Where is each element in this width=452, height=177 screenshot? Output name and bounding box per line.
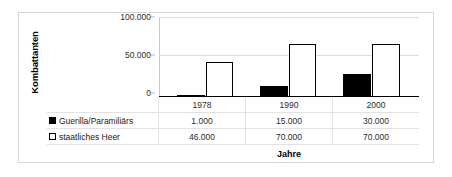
y-tick-mark-100000 bbox=[151, 17, 155, 18]
table-header-2000: 2000 bbox=[333, 97, 419, 113]
x-axis-title: Jahre bbox=[159, 147, 419, 161]
bar-group-1978 bbox=[175, 17, 237, 97]
legend-swatch-filled-square-icon bbox=[49, 117, 56, 124]
plot-region: 100.000 50.000 0 bbox=[47, 17, 419, 97]
table-cell-heer-2000: 70.000 bbox=[333, 129, 419, 145]
plot-area bbox=[159, 17, 419, 97]
bar-heer-1990 bbox=[289, 44, 316, 97]
y-tick-label-50000: 50.000 bbox=[125, 50, 151, 60]
legend-item-guerilla: Guerilla/Paramiliärs bbox=[47, 113, 159, 129]
legend-label-heer: staatliches Heer bbox=[59, 132, 120, 142]
table-row-years: 1978 1990 2000 bbox=[47, 97, 419, 113]
bar-guerilla-2000 bbox=[343, 74, 370, 97]
table-cell-guerilla-1978: 1.000 bbox=[159, 113, 246, 129]
table-cell-heer-1978: 46.000 bbox=[159, 129, 246, 145]
legend-label-guerilla: Guerilla/Paramiliärs bbox=[59, 116, 133, 126]
y-axis-title: Kombattanten bbox=[25, 19, 43, 105]
y-tick-mark-0 bbox=[151, 93, 155, 94]
table-cell-heer-1990: 70.000 bbox=[246, 129, 333, 145]
bar-group-2000 bbox=[341, 17, 403, 97]
y-axis-tick-labels: 100.000 50.000 0 bbox=[47, 17, 155, 97]
table-cell-guerilla-1990: 15.000 bbox=[246, 113, 333, 129]
table-row-heer: staatliches Heer 46.000 70.000 70.000 bbox=[47, 129, 419, 145]
table-row-guerilla: Guerilla/Paramiliärs 1.000 15.000 30.000 bbox=[47, 113, 419, 129]
legend-item-heer: staatliches Heer bbox=[47, 129, 159, 145]
table-header-1990: 1990 bbox=[246, 97, 333, 113]
table-corner-cell bbox=[47, 97, 159, 113]
data-table: 1978 1990 2000 Guerilla/Paramiliärs 1.00… bbox=[47, 97, 419, 145]
y-tick-mark-50000 bbox=[151, 55, 155, 56]
chart-frame: Kombattanten 100.000 50.000 0 bbox=[18, 12, 434, 163]
table-header-1978: 1978 bbox=[159, 97, 246, 113]
bar-group-1990 bbox=[258, 17, 320, 97]
table-cell-guerilla-2000: 30.000 bbox=[333, 113, 419, 129]
bar-heer-2000 bbox=[372, 44, 399, 97]
legend-swatch-hollow-square-icon bbox=[49, 133, 56, 140]
y-axis-line bbox=[159, 17, 160, 97]
y-axis-title-label: Kombattanten bbox=[29, 31, 40, 94]
bar-heer-1978 bbox=[206, 62, 233, 97]
y-tick-label-100000: 100.000 bbox=[120, 12, 151, 22]
